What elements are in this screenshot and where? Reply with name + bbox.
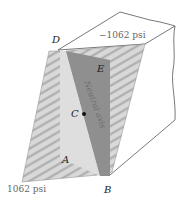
centroid-dot (82, 112, 86, 116)
label-e: E (96, 63, 105, 74)
label-c: C (71, 108, 79, 119)
stress-top-value: −1062 psi (99, 30, 146, 40)
stress-bottom-value: 1062 psi (7, 184, 46, 194)
label-d: D (51, 34, 60, 45)
label-b: B (103, 184, 111, 195)
label-a: A (61, 154, 69, 165)
beam-stress-diagram: Neutral axis D E C A B −1062 psi 1062 ps… (0, 0, 189, 204)
